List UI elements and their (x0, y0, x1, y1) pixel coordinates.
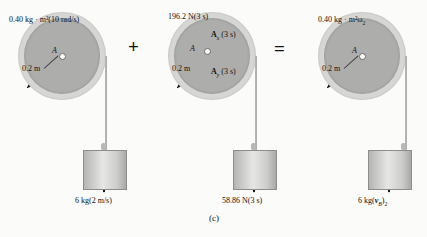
center-label-term3: A (352, 47, 357, 55)
disk-hub-term3 (359, 53, 366, 60)
impulse-momentum-figure: 0.40 kg · m²(10 rad/s) A 0.2 m 6 kg(2 m/… (0, 0, 427, 237)
block-label-term2: 58.86 N(3 s) (222, 197, 262, 205)
plus-operator: + (128, 36, 139, 58)
disk-hub-term2 (204, 48, 211, 55)
block-term1 (83, 150, 127, 190)
force-x-time-term2: (3 s) (221, 30, 235, 39)
center-label-term2: A (190, 45, 195, 53)
cord-knot-term1 (101, 143, 106, 150)
block-label-term3: 6 kg(vB)2 (358, 197, 387, 207)
force-y-subscript-term2: y (217, 72, 220, 78)
block-mass-term3: 6 kg( (358, 196, 375, 205)
force-x-label-term2: Ax (3 s) (211, 31, 236, 41)
figure-caption: (c) (209, 213, 219, 223)
radius-label-term1: 0.2 m (22, 65, 40, 73)
angular-momentum-subscript-term3: 2 (363, 20, 366, 26)
angular-momentum-text-term1: 0.40 kg · m²(10 rad/s) (9, 15, 79, 24)
cord-term2 (255, 56, 257, 152)
weight-label-term2: 196.2 N(3 s) (168, 13, 208, 21)
angular-momentum-label-term3: 0.40 kg · m²ω2 (318, 16, 365, 26)
angular-momentum-label-term1: 0.40 kg · m²(10 rad/s) (9, 16, 79, 24)
force-x-subscript-term2: x (217, 35, 220, 41)
equals-operator: = (274, 38, 285, 60)
block-label-term1: 6 kg(2 m/s) (75, 197, 112, 205)
center-label-term1: A (52, 47, 57, 55)
disk-hub-term1 (59, 53, 66, 60)
cord-term3 (405, 56, 407, 152)
velocity-index-term3: 2 (384, 201, 387, 207)
block-term3 (368, 150, 412, 190)
block-term2 (233, 150, 277, 190)
cord-knot-term2 (251, 143, 256, 150)
cord-term1 (105, 56, 107, 152)
radius-label-term2: 0.2 m (172, 65, 190, 73)
force-y-time-term2: (3 s) (221, 67, 235, 76)
cord-knot-term3 (401, 143, 406, 150)
force-y-label-term2: Ay (3 s) (211, 68, 236, 78)
angular-momentum-text-term3: 0.40 kg · m²ω (318, 15, 363, 24)
radius-label-term3: 0.2 m (322, 65, 340, 73)
